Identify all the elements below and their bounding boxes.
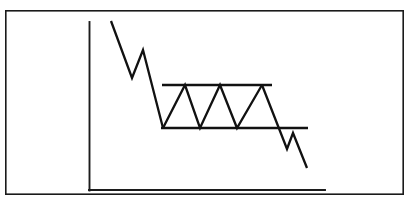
price-line-breakdown <box>262 85 307 168</box>
pattern-diagram: Bearish Rectangle Consolidation Pattern <box>0 0 410 202</box>
price-line-consolidation <box>163 85 262 128</box>
price-line-downtrend <box>111 21 163 128</box>
figure-root: Bearish Rectangle Consolidation Pattern <box>0 0 410 202</box>
outer-border <box>6 11 403 194</box>
